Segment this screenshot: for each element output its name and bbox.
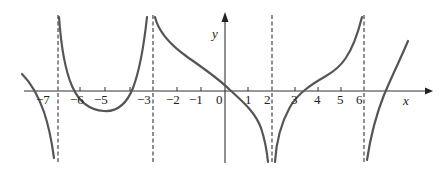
curve-branch-5 bbox=[367, 41, 408, 160]
x-ticks bbox=[80, 87, 341, 91]
x-axis-label: x bbox=[402, 93, 409, 108]
function-graph: x y −7 −6 −5 −3 −2 −1 0 1 2 3 4 5 6 bbox=[0, 0, 442, 175]
tick-label: 1 bbox=[245, 92, 252, 107]
tick-label: 0 bbox=[216, 92, 223, 107]
tick-label: 3 bbox=[291, 92, 298, 107]
x-axis-arrow-icon bbox=[425, 88, 433, 95]
y-axis-label: y bbox=[210, 26, 218, 41]
tick-label: −3 bbox=[137, 92, 151, 107]
y-axis-arrow-icon bbox=[222, 12, 229, 22]
tick-label: 6 bbox=[356, 92, 363, 107]
tick-label: 4 bbox=[314, 92, 321, 107]
tick-label: −2 bbox=[166, 92, 180, 107]
tick-label: −7 bbox=[36, 92, 50, 107]
tick-label: −5 bbox=[94, 92, 108, 107]
tick-label: 5 bbox=[337, 92, 344, 107]
tick-label: −6 bbox=[70, 92, 84, 107]
tick-label: 2 bbox=[264, 92, 271, 107]
tick-label: −1 bbox=[189, 92, 203, 107]
curve-branch-1 bbox=[22, 74, 54, 158]
